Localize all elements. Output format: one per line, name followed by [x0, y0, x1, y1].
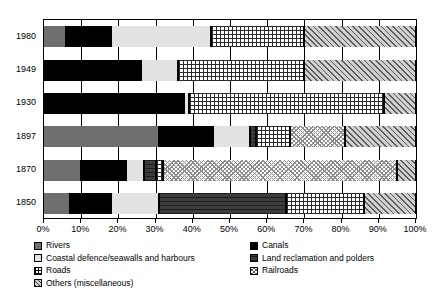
bar-segment-1850-land[interactable]	[159, 193, 285, 214]
bar-segment-1870-land[interactable]	[144, 160, 155, 181]
axis-tick	[341, 219, 342, 223]
axis-tick	[117, 219, 118, 223]
chart-page: 198019491930189718701850 0%10%20%30%40%5…	[0, 0, 447, 297]
bar-segment-1949-coastal[interactable]	[141, 60, 178, 81]
x-axis-label: 10%	[60, 224, 100, 235]
bar-segment-1897-others[interactable]	[345, 126, 416, 147]
legend-label-others: Others (miscellaneous)	[46, 279, 133, 288]
bar-segment-1897-rail[interactable]	[290, 126, 346, 147]
bar-segment-1897-rivers[interactable]	[44, 126, 159, 147]
stacked-bar-1930[interactable]	[44, 93, 416, 114]
axis-tick	[229, 219, 230, 223]
bar-segment-1850-rivers[interactable]	[44, 193, 70, 214]
legend-item-canals[interactable]: Canals	[250, 240, 374, 251]
x-axis-labels: 0%10%20%30%40%50%60%70%80%90%100%	[0, 224, 447, 236]
stacked-bar-1870[interactable]	[44, 160, 416, 181]
y-axis-labels: 198019491930189718701850	[0, 19, 41, 219]
bar-segment-1870-roads[interactable]	[156, 160, 163, 181]
bar-row-1949	[44, 60, 416, 81]
legend-item-roads[interactable]: Roads	[34, 265, 195, 276]
axis-tick	[43, 219, 44, 223]
bar-segment-1850-others[interactable]	[364, 193, 416, 214]
bar-segment-1850-canals[interactable]	[70, 193, 111, 214]
bar-segment-1930-roads[interactable]	[189, 93, 384, 114]
bar-row-1870	[44, 160, 416, 181]
legend-label-rail: Railroads	[262, 266, 298, 275]
bar-segment-1870-rivers[interactable]	[44, 160, 81, 181]
axis-tick	[415, 219, 416, 223]
legend-swatch-coastal-icon	[34, 254, 42, 262]
axis-tick	[80, 219, 81, 223]
y-axis-label-1930: 1930	[16, 97, 36, 107]
axis-tick	[378, 219, 379, 223]
legend-swatch-land-icon	[250, 254, 258, 262]
bar-segment-1980-coastal[interactable]	[111, 26, 211, 47]
x-axis-label: 30%	[135, 224, 175, 235]
legend-item-rivers[interactable]: Rivers	[34, 240, 195, 251]
x-axis-label: 40%	[172, 224, 212, 235]
bar-segment-1949-canals[interactable]	[44, 60, 141, 81]
legend-swatch-rivers-icon	[34, 242, 42, 250]
legend-label-land: Land reclamation and polders	[262, 254, 374, 263]
legend-label-roads: Roads	[46, 266, 71, 275]
legend-item-rail[interactable]: Railroads	[250, 265, 374, 276]
bar-segment-1850-coastal[interactable]	[111, 193, 159, 214]
bar-segment-1870-others[interactable]	[397, 160, 416, 181]
x-axis-label: 50%	[209, 224, 249, 235]
stacked-bar-1980[interactable]	[44, 26, 416, 47]
x-axis-label: 0%	[23, 224, 63, 235]
legend-swatch-rail-icon	[250, 267, 258, 275]
x-axis-label: 80%	[321, 224, 361, 235]
axis-tick	[155, 219, 156, 223]
stacked-bar-1949[interactable]	[44, 60, 416, 81]
x-axis-label: 70%	[283, 224, 323, 235]
bar-segment-1949-roads[interactable]	[178, 60, 304, 81]
bar-segment-1870-rail[interactable]	[163, 160, 397, 181]
bar-segment-1930-others[interactable]	[384, 93, 416, 114]
bar-row-1930	[44, 93, 416, 114]
y-axis-label-1897: 1897	[16, 131, 36, 141]
bar-segment-1980-others[interactable]	[304, 26, 416, 47]
plot-area	[43, 19, 417, 219]
axis-tick	[303, 219, 304, 223]
x-axis-label: 20%	[97, 224, 137, 235]
bar-segment-1897-coastal[interactable]	[213, 126, 250, 147]
bar-segment-1949-others[interactable]	[304, 60, 416, 81]
bar-segment-1980-rivers[interactable]	[44, 26, 66, 47]
bar-segment-1850-roads[interactable]	[286, 193, 364, 214]
legend-column-right: CanalsLand reclamation and poldersRailro…	[250, 240, 374, 278]
legend-column-left: RiversCoastal defence/seawalls and harbo…	[34, 240, 195, 290]
stacked-bar-1897[interactable]	[44, 126, 416, 147]
x-axis-label: 100%	[395, 224, 435, 235]
legend-label-coastal: Coastal defence/seawalls and harbours	[46, 254, 195, 263]
y-axis-label-1980: 1980	[16, 31, 36, 41]
bar-segment-1930-canals[interactable]	[44, 93, 184, 114]
legend-item-land[interactable]: Land reclamation and polders	[250, 253, 374, 264]
x-axis-label: 90%	[358, 224, 398, 235]
bar-segment-1897-canals[interactable]	[159, 126, 213, 147]
legend-label-rivers: Rivers	[46, 241, 70, 250]
axis-tick	[266, 219, 267, 223]
legend-label-canals: Canals	[262, 241, 288, 250]
bar-segment-1897-roads[interactable]	[256, 126, 289, 147]
axis-tick	[192, 219, 193, 223]
stacked-bar-1850[interactable]	[44, 193, 416, 214]
x-axis-label: 60%	[246, 224, 286, 235]
legend-swatch-roads-icon	[34, 267, 42, 275]
bar-rows	[44, 20, 416, 218]
legend-item-coastal[interactable]: Coastal defence/seawalls and harbours	[34, 253, 195, 264]
bar-segment-1980-roads[interactable]	[211, 26, 304, 47]
bar-row-1850	[44, 193, 416, 214]
legend-swatch-others-icon	[34, 279, 42, 287]
bar-row-1897	[44, 126, 416, 147]
bar-segment-1980-canals[interactable]	[66, 26, 111, 47]
bar-segment-1870-coastal[interactable]	[126, 160, 145, 181]
bar-segment-1870-canals[interactable]	[81, 160, 126, 181]
plot-area-wrapper: 198019491930189718701850 0%10%20%30%40%5…	[0, 0, 447, 232]
y-axis-label-1870: 1870	[16, 164, 36, 174]
y-axis-label-1949: 1949	[16, 64, 36, 74]
legend-swatch-canals-icon	[250, 242, 258, 250]
bar-row-1980	[44, 26, 416, 47]
y-axis-label-1850: 1850	[16, 197, 36, 207]
legend-item-others[interactable]: Others (miscellaneous)	[34, 278, 195, 289]
